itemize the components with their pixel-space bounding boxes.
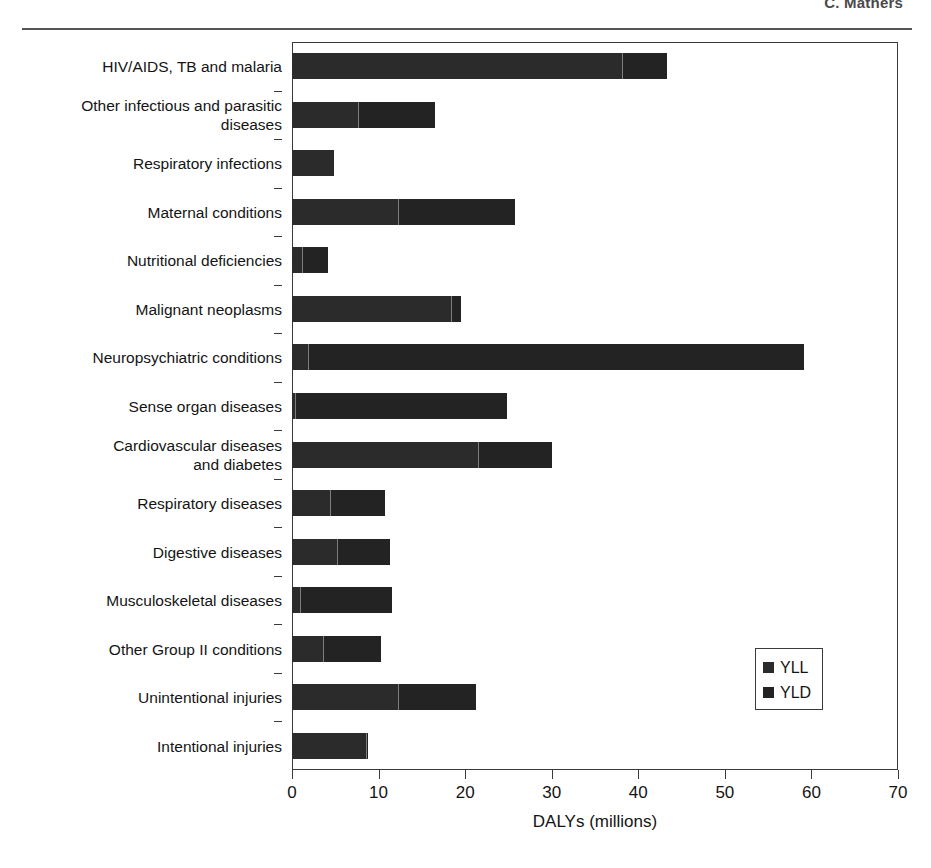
bar-row [292,733,898,759]
y-axis-tick [274,479,282,480]
y-axis-label: Intentional injuries [0,736,282,755]
bar-segment-yll [292,442,478,468]
bar-segment-yll [292,539,337,565]
bar-row [292,393,898,419]
y-axis-label: Cardiovascular diseases and diabetes [0,436,282,474]
y-axis-category-labels: HIV/AIDS, TB and malariaOther infectious… [0,42,282,770]
x-axis-tick [465,770,466,779]
bar-row [292,247,898,273]
y-axis-label: Musculoskeletal diseases [0,591,282,610]
bar-segment-yld [398,199,516,225]
x-axis-tick [552,770,553,779]
square-swatch-icon [763,687,774,698]
x-axis-tick-label: 30 [542,783,561,803]
bar-segment-yll [292,150,334,176]
bar-segment-yll [292,53,622,79]
y-axis-label: Sense organ diseases [0,397,282,416]
x-axis-tick-label: 0 [287,783,296,803]
legend-item: YLL [763,655,822,680]
y-axis-tick [274,624,282,625]
bar-segment-yld [308,344,804,370]
bar-segment-yll [292,247,302,273]
bar-segment-yld [451,296,461,322]
bar-row [292,442,898,468]
x-axis-tick [638,770,639,779]
y-axis-tick [274,333,282,334]
bar-segment-yld [337,539,390,565]
y-axis-label: HIV/AIDS, TB and malaria [0,57,282,76]
bar-segment-yll [292,636,323,662]
bar-segment-yll [292,684,398,710]
x-axis: 010203040506070 [292,770,898,771]
y-axis-label: Other infectious and parasitic diseases [0,96,282,134]
legend-label: YLD [780,685,811,701]
y-axis-label: Malignant neoplasms [0,299,282,318]
y-axis-label: Respiratory infections [0,154,282,173]
x-axis-tick-label: 20 [456,783,475,803]
x-axis-tick-label: 10 [369,783,388,803]
bar-row [292,296,898,322]
x-axis-tick-label: 50 [715,783,734,803]
legend-item: YLD [763,680,822,705]
y-axis-tick [274,673,282,674]
bar-segment-yld [622,53,667,79]
bar-row [292,587,898,613]
y-axis-tick [274,430,282,431]
y-axis-tick [274,91,282,92]
bar-segment-yll [292,296,451,322]
y-axis-label: Nutritional deficiencies [0,251,282,270]
y-axis-tick [274,188,282,189]
dalys-bar-chart: HIV/AIDS, TB and malariaOther infectious… [0,0,931,868]
bar-row [292,53,898,79]
bar-segment-yld [358,102,435,128]
bar-segment-yll [292,199,398,225]
bar-segment-yll [292,733,366,759]
bar-row [292,199,898,225]
y-axis-label: Unintentional injuries [0,688,282,707]
y-axis-tick [274,236,282,237]
y-axis-label: Other Group II conditions [0,639,282,658]
bar-segment-yld [302,247,328,273]
square-swatch-icon [763,662,774,673]
y-axis-tick [274,382,282,383]
y-axis-tick [274,139,282,140]
x-axis-tick [898,770,899,779]
bar-segment-yll [292,490,330,516]
bar-row [292,102,898,128]
bar-segment-yld [300,587,392,613]
bar-segment-yll [292,344,308,370]
bar-segment-yld [398,684,477,710]
y-axis-label: Digestive diseases [0,542,282,561]
y-axis-tick [274,527,282,528]
y-axis-tick [274,576,282,577]
bar-segment-yld [323,636,381,662]
y-axis-tick [274,285,282,286]
bar-segment-yll [292,587,300,613]
y-axis-label: Respiratory diseases [0,494,282,513]
bar-row [292,539,898,565]
bar-segment-yll [292,102,358,128]
bar-segment-yld [366,733,368,759]
y-axis-tick [274,721,282,722]
bar-segment-yld [295,393,506,419]
x-axis-tick [725,770,726,779]
bar-row [292,490,898,516]
bar-segment-yld [478,442,552,468]
x-axis-tick-label: 70 [889,783,908,803]
x-axis-tick-label: 60 [802,783,821,803]
bar-segment-yld [330,490,385,516]
chart-legend: YLLYLD [755,648,823,710]
y-axis-label: Maternal conditions [0,202,282,221]
bar-row [292,150,898,176]
x-axis-tick [379,770,380,779]
x-axis-tick [811,770,812,779]
x-axis-title: DALYs (millions) [292,812,898,832]
x-axis-tick-label: 40 [629,783,648,803]
y-axis-label: Neuropsychiatric conditions [0,348,282,367]
legend-label: YLL [780,660,808,676]
bar-row [292,344,898,370]
x-axis-tick [292,770,293,779]
